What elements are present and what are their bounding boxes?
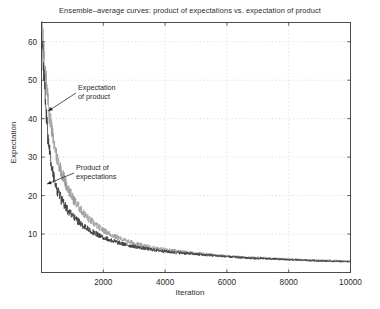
x-tick-label-6000: 6000 — [218, 278, 236, 287]
annotation-product-of-expectations: Product of expectations — [76, 164, 116, 181]
x-tick-label-4000: 4000 — [156, 278, 174, 287]
annotation-expectation-of-product: Expectation of product — [78, 84, 116, 101]
x-tick-label-2000: 2000 — [94, 278, 112, 287]
y-tick-label-10: 10 — [12, 230, 37, 239]
y-tick-label-30: 30 — [12, 153, 37, 162]
plot-area — [0, 0, 380, 309]
annotation-line-2: expectations — [76, 173, 116, 182]
x-axis-label: Iteration — [0, 288, 380, 297]
figure-container: Ensemble–average curves: product of expe… — [0, 0, 380, 309]
y-tick-label-60: 60 — [12, 37, 37, 46]
y-tick-label-50: 50 — [12, 76, 37, 85]
x-tick-label-8000: 8000 — [280, 278, 298, 287]
x-tick-label-10000: 10000 — [339, 278, 362, 287]
annotation-line-2: of product — [78, 93, 116, 102]
y-tick-label-40: 40 — [12, 114, 37, 123]
y-tick-label-20: 20 — [12, 191, 37, 200]
